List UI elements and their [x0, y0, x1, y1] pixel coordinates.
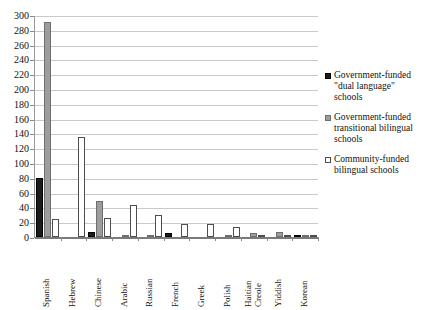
bar-groups [35, 16, 318, 237]
legend-swatch-icon [325, 115, 331, 121]
bar [122, 235, 129, 237]
x-axis-tick-label: Spanish [42, 243, 52, 307]
x-axis-label-cell: Korean [292, 243, 318, 307]
bar [225, 235, 232, 237]
y-axis-tick-label: 100 [0, 159, 33, 169]
bar [78, 137, 85, 237]
y-axis-tick-mark [30, 149, 34, 150]
y-axis-tick-label: 40 [0, 203, 33, 213]
x-axis-label-cell: Hebrew [60, 243, 86, 307]
legend-item: Government-funded transitional bilingual… [325, 112, 435, 145]
legend-label: Community-funded bilingual schools [334, 154, 409, 176]
y-axis-tick-mark [30, 120, 34, 121]
y-axis-tick-mark [30, 179, 34, 180]
x-axis-tick-label: Arabic [120, 243, 130, 307]
y-axis-tick-mark [30, 164, 34, 165]
y-axis-tick-label: 60 [0, 188, 33, 198]
bar-group [267, 16, 293, 237]
bar-group [292, 16, 318, 237]
legend-label: Government-funded "dual language" school… [334, 70, 411, 103]
y-axis-tick-label: 120 [0, 144, 33, 154]
y-axis-tick-label: 0 [0, 233, 33, 243]
y-axis-tick-mark [30, 75, 34, 76]
bar [88, 232, 95, 237]
y-axis-tick-label: 200 [0, 85, 33, 95]
plot-area [34, 16, 318, 238]
bar [233, 227, 240, 237]
y-axis-tick-label: 240 [0, 55, 33, 65]
y-axis-tick-label: 140 [0, 129, 33, 139]
x-axis-label-cell: Polish [215, 243, 241, 307]
bar [52, 219, 59, 237]
y-axis-tick-mark [30, 60, 34, 61]
bar-group [241, 16, 267, 237]
legend-swatch-icon [325, 73, 331, 79]
bar [258, 235, 265, 237]
bar [250, 233, 257, 237]
gridline [35, 238, 318, 239]
x-axis-tick-label: Polish [223, 243, 233, 307]
bar-chart: 3002802602402202001801601401201008060402… [0, 0, 436, 310]
bar [36, 178, 43, 237]
legend-swatch-icon [325, 157, 331, 163]
x-axis-label-cell: Yiddish [266, 243, 292, 307]
y-axis-tick-mark [30, 31, 34, 32]
y-axis-tick-label: 80 [0, 173, 33, 183]
x-axis-label-cell: Spanish [34, 243, 60, 307]
x-axis-tick-label: Russian [145, 243, 155, 307]
y-axis-tick-label: 160 [0, 114, 33, 124]
bar-group [215, 16, 241, 237]
bar [155, 215, 162, 237]
bar-group [164, 16, 190, 237]
bar [207, 224, 214, 237]
x-axis-tick-label: French [171, 243, 181, 307]
x-axis-tick-label: Yiddish [274, 243, 284, 307]
legend-label: Government-funded transitional bilingual… [334, 112, 413, 145]
x-axis-label-cell: French [163, 243, 189, 307]
y-axis-tick-label: 220 [0, 70, 33, 80]
y-axis-tick-mark [30, 223, 34, 224]
bar-group [138, 16, 164, 237]
x-axis-tick-label: Chinese [94, 243, 104, 307]
bar-group [112, 16, 138, 237]
x-axis-labels: SpanishHebrewChineseArabicRussianFrenchG… [34, 243, 318, 307]
legend-item: Community-funded bilingual schools [325, 154, 435, 176]
bar [310, 235, 317, 237]
bar [165, 233, 172, 237]
y-axis-tick-label: 180 [0, 99, 33, 109]
y-axis-tick-label: 300 [0, 11, 33, 21]
y-axis-tick-mark [30, 208, 34, 209]
bar [96, 201, 103, 237]
bar [104, 218, 111, 237]
legend-item: Government-funded "dual language" school… [325, 70, 435, 103]
y-axis-tick-mark [30, 105, 34, 106]
x-axis-label-cell: Haitian Creole [241, 243, 267, 307]
x-axis-label-cell: Greek [189, 243, 215, 307]
x-axis-tick-label: Greek [197, 243, 207, 307]
bar [181, 224, 188, 237]
x-axis-tick-label: Hebrew [68, 243, 78, 307]
y-axis-tick-mark [30, 194, 34, 195]
bar-group [189, 16, 215, 237]
bar [44, 22, 51, 237]
x-axis-tick-label: Haitian Creole [244, 243, 263, 307]
y-axis-tick-label: 280 [0, 25, 33, 35]
y-axis-tick-mark [30, 46, 34, 47]
bar-group [35, 16, 61, 237]
x-axis-label-cell: Arabic [111, 243, 137, 307]
bar [130, 205, 137, 237]
bar [147, 235, 154, 237]
bar [284, 235, 291, 237]
x-axis-tick-label: Korean [300, 243, 310, 307]
y-axis-tick-label: 260 [0, 40, 33, 50]
y-axis-tick-mark [30, 90, 34, 91]
y-axis-tick-mark [30, 16, 34, 17]
bar-group [61, 16, 87, 237]
legend: Government-funded "dual language" school… [325, 70, 435, 185]
x-axis-label-cell: Russian [137, 243, 163, 307]
y-axis-tick-mark [30, 238, 34, 239]
bar [294, 235, 301, 237]
bar [276, 232, 283, 237]
x-axis-label-cell: Chinese [86, 243, 112, 307]
bar [302, 235, 309, 237]
